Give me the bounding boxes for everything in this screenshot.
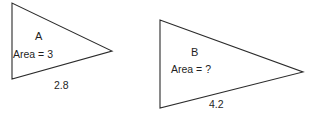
triangle-b-area-label: Area = ? bbox=[171, 64, 211, 75]
triangle-a-base-length-label: 2.8 bbox=[54, 80, 69, 91]
triangle-a-shape bbox=[12, 3, 112, 79]
triangle-a-name-label: A bbox=[35, 31, 42, 42]
triangle-b-name-label: B bbox=[191, 47, 198, 58]
triangle-b-base-length-label: 4.2 bbox=[209, 99, 224, 110]
triangle-a-area-label: Area = 3 bbox=[13, 49, 53, 60]
